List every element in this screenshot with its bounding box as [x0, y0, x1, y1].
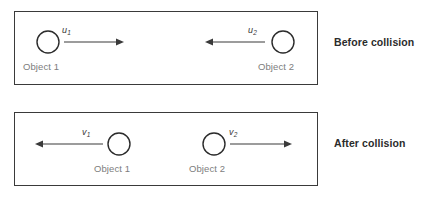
velocity-label-v2: v2 [229, 127, 237, 137]
caption-after-collision: After collision [334, 137, 406, 149]
object-1-label-before: Object 1 [23, 61, 59, 72]
velocity-label-u1: u1 [62, 25, 71, 35]
after-collision-panel: v1 v2 Object 1 Object 2 [14, 112, 318, 186]
caption-before-collision: Before collision [334, 36, 414, 48]
velocity-arrow-u1 [64, 39, 124, 46]
object-2-circle [272, 31, 294, 53]
before-collision-panel: u1 u2 Object 1 Object 2 [14, 11, 318, 85]
object-2-label-after: Object 2 [189, 163, 225, 174]
velocity-arrow-u2 [205, 39, 265, 46]
after-collision-stage: v1 v2 Object 1 Object 2 [15, 113, 317, 185]
before-collision-stage: u1 u2 Object 1 Object 2 [15, 12, 317, 84]
object-2-label-before: Object 2 [258, 61, 294, 72]
object-1-circle-after [108, 133, 130, 155]
object-1-label-after: Object 1 [94, 163, 130, 174]
velocity-label-v1: v1 [82, 127, 90, 137]
before-collision-graphics [15, 12, 316, 83]
velocity-arrow-v2 [230, 141, 292, 148]
velocity-arrow-v1 [35, 141, 103, 148]
object-2-circle-after [203, 133, 225, 155]
object-1-circle [37, 31, 59, 53]
velocity-label-u2: u2 [248, 25, 257, 35]
after-collision-graphics [15, 113, 316, 184]
